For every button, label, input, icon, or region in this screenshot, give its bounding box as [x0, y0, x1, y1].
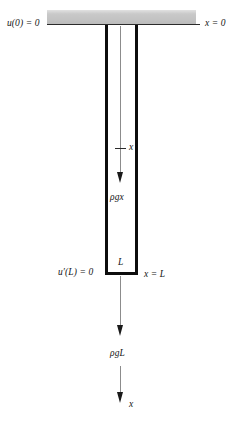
fixed-support-block — [47, 10, 196, 24]
label-rho-g-L: ρgL — [110, 349, 125, 359]
label-x-at-L: x = L — [144, 270, 165, 280]
arrow-down-icon-x-axis — [117, 392, 123, 403]
arrow-down-icon-rho-g-L — [117, 325, 123, 336]
label-L: L — [118, 258, 123, 268]
label-u-prime-at-L: u′(L) = 0 — [58, 268, 93, 278]
label-u-at-0: u(0) = 0 — [7, 19, 40, 29]
bar-left-wall — [105, 25, 108, 275]
bar-bottom-edge — [105, 272, 138, 275]
label-x-axis: x — [129, 400, 133, 410]
bar-right-wall — [135, 25, 138, 275]
bar-free-body-diagram: u(0) = 0 x = 0 x ρgx u′(L) = 0 L x = L ρ… — [0, 0, 237, 421]
axis-line-inside-bar — [120, 26, 121, 175]
support-baseline — [47, 24, 200, 25]
label-x-at-0: x = 0 — [205, 19, 226, 29]
label-x-tick: x — [129, 143, 133, 153]
arrow-down-icon-rho-g-x — [117, 172, 123, 183]
axis-line-below-bar — [120, 276, 121, 328]
tick-mark-icon — [115, 148, 126, 149]
label-rho-g-x: ρgx — [110, 193, 124, 203]
